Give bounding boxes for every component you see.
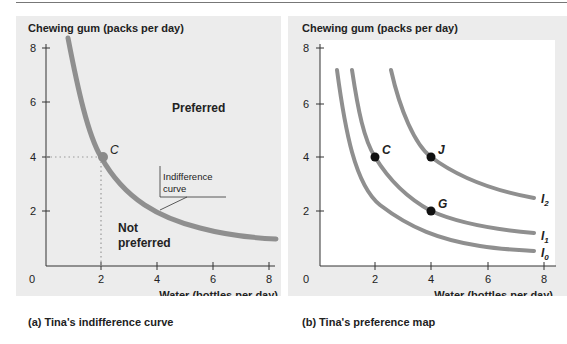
ytick-4: 4 <box>30 151 36 163</box>
panel-a-indifference-curve: C Indifference curve Preferred Not prefe… <box>16 16 281 296</box>
xtick-0: 0 <box>29 273 35 285</box>
y-axis-label: Chewing gum (packs per day) <box>28 22 184 34</box>
x-axis-label: Water (bottles per day) <box>159 289 278 296</box>
callout-text-2: curve <box>163 183 186 194</box>
xtick-0: 0 <box>303 273 309 285</box>
not-preferred-label-1: Not <box>118 221 138 235</box>
xtick-8: 8 <box>541 273 547 285</box>
caption-b: (b) Tina's preference map <box>302 316 435 328</box>
point-c <box>98 152 108 162</box>
point-j <box>427 153 436 162</box>
caption-a: (a) Tina's indifference curve <box>28 316 173 328</box>
panel-b-preference-map: C J G I2 I1 I0 8 6 4 2 0 2 4 6 8 Chewing… <box>288 16 567 296</box>
not-preferred-label-2: preferred <box>118 236 171 250</box>
preferred-label: Preferred <box>172 101 225 115</box>
chart-b: C J G I2 I1 I0 8 6 4 2 0 2 4 6 8 Chewing… <box>288 16 567 296</box>
ytick-2: 2 <box>303 205 309 217</box>
point-j-label: J <box>438 143 445 157</box>
xtick-2: 2 <box>98 273 104 285</box>
y-axis-label: Chewing gum (packs per day) <box>302 22 458 34</box>
ytick-4: 4 <box>303 151 309 163</box>
point-c <box>371 153 380 162</box>
xtick-6: 6 <box>485 273 491 285</box>
ytick-6: 6 <box>303 98 309 110</box>
xtick-6: 6 <box>210 273 216 285</box>
top-rule <box>16 2 567 3</box>
indifference-curve <box>68 38 276 239</box>
ytick-8: 8 <box>30 42 36 54</box>
xtick-4: 4 <box>428 273 434 285</box>
callout-text-1: Indifference <box>163 171 212 182</box>
point-c-label: C <box>110 143 119 157</box>
chart-a: C Indifference curve Preferred Not prefe… <box>16 16 281 296</box>
ytick-6: 6 <box>30 96 36 108</box>
xtick-8: 8 <box>266 273 272 285</box>
callout-leader <box>160 197 187 210</box>
point-g-label: G <box>438 197 447 211</box>
x-axis-label: Water (bottles per day) <box>434 289 553 296</box>
xtick-4: 4 <box>154 273 160 285</box>
xtick-2: 2 <box>372 273 378 285</box>
ytick-8: 8 <box>303 42 309 54</box>
ytick-2: 2 <box>30 205 36 217</box>
point-g <box>427 207 436 216</box>
point-c-label: C <box>382 143 391 157</box>
